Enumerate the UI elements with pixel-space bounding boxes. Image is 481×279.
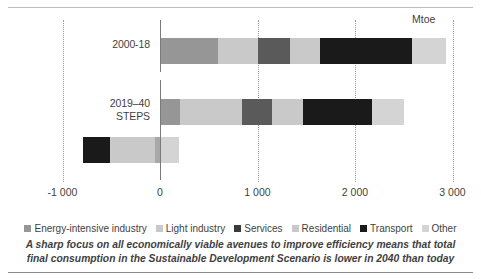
chart-plot-area: 2000-182019–40STEPS2019–40SDS <box>0 14 481 186</box>
legend-item-other[interactable]: Other <box>422 223 457 234</box>
x-tick-label-1000: 1 000 <box>218 186 298 198</box>
x-tick-label-0: 0 <box>120 186 200 198</box>
bar-segment-energy-intensive-industry <box>160 99 180 125</box>
x-tick-label-3000: 3 000 <box>413 186 481 198</box>
legend-item-services[interactable]: Services <box>234 223 282 234</box>
zero-axis-line-3 <box>160 132 161 180</box>
chart-caption: A sharp focus on all economically viable… <box>14 238 467 266</box>
bar-segment-residential <box>290 38 320 64</box>
bar-segment-services <box>258 38 290 64</box>
caption-line-2: final consumption in the Sustainable Dev… <box>27 253 454 264</box>
legend-swatch-icon <box>24 225 31 232</box>
bottom-divider <box>8 272 473 273</box>
bar-segment-energy-intensive-industry <box>160 38 218 64</box>
bar-segment-other <box>412 38 446 64</box>
bar-segment-transport <box>303 99 372 125</box>
bar-2019-40-sds <box>0 137 481 163</box>
legend-label: Other <box>432 223 457 234</box>
chart-legend: Energy-intensive industryLight industryS… <box>0 220 481 236</box>
legend-item-residential[interactable]: Residential <box>292 223 351 234</box>
bar-segment-transport <box>83 137 110 163</box>
legend-swatch-icon <box>292 225 299 232</box>
zero-axis-line-1 <box>160 20 161 72</box>
bar-segment-light-industry <box>218 38 258 64</box>
legend-label: Light industry <box>166 223 225 234</box>
legend-label: Energy-intensive industry <box>34 223 146 234</box>
bar-segment-residential <box>272 99 303 125</box>
bar-2000-18 <box>0 38 481 64</box>
zero-axis-line-2 <box>160 80 161 132</box>
bar-2019-40-steps <box>0 99 481 125</box>
legend-swatch-icon <box>156 225 163 232</box>
legend-swatch-icon <box>422 225 429 232</box>
legend-swatch-icon <box>234 225 241 232</box>
x-axis: -1 00001 0002 0003 000 <box>0 186 481 212</box>
legend-item-energy-intensive-industry[interactable]: Energy-intensive industry <box>24 223 146 234</box>
x-tick-label--1000: -1 000 <box>23 186 103 198</box>
legend-label: Residential <box>302 223 351 234</box>
bar-segment-light-industry <box>180 99 242 125</box>
legend-swatch-icon <box>360 225 367 232</box>
legend-item-transport[interactable]: Transport <box>360 223 412 234</box>
bar-segment-other <box>372 99 404 125</box>
bar-segment-services <box>242 99 272 125</box>
bar-segment-other <box>160 137 179 163</box>
x-tick-label-2000: 2 000 <box>315 186 395 198</box>
caption-line-1: A sharp focus on all economically viable… <box>26 239 456 250</box>
bar-segment-transport <box>320 38 412 64</box>
bar-segment-light-industry <box>110 137 155 163</box>
top-divider <box>8 7 473 8</box>
axis-unit-label: Mtoe <box>412 13 481 25</box>
legend-label: Transport <box>370 223 412 234</box>
legend-label: Services <box>244 223 282 234</box>
legend-item-light-industry[interactable]: Light industry <box>156 223 225 234</box>
